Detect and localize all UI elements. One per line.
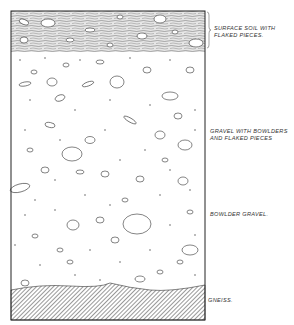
label-gravel-bowlders: GRAVEL WITH BOWLDERS AND FLAKED PIECES bbox=[210, 128, 288, 142]
label-surface-soil: SURFACE SOIL WITH FLAKED PIECES. bbox=[214, 25, 275, 39]
label-gneiss: GNEISS. bbox=[208, 297, 233, 304]
label-line: BOWLDER GRAVEL. bbox=[210, 211, 268, 218]
gravel-layer bbox=[11, 52, 205, 288]
gneiss-layer bbox=[11, 283, 205, 320]
layer-brackets bbox=[207, 12, 211, 48]
label-line: GNEISS. bbox=[208, 297, 233, 304]
surface-soil-layer bbox=[11, 11, 205, 52]
label-line: FLAKED PIECES. bbox=[214, 32, 275, 39]
label-line: AND FLAKED PIECES bbox=[210, 135, 288, 142]
label-line: GRAVEL WITH BOWLDERS bbox=[210, 128, 288, 135]
label-line: SURFACE SOIL WITH bbox=[214, 25, 275, 32]
label-bowlder-gravel: BOWLDER GRAVEL. bbox=[210, 211, 268, 218]
stratigraphic-section bbox=[0, 0, 294, 325]
